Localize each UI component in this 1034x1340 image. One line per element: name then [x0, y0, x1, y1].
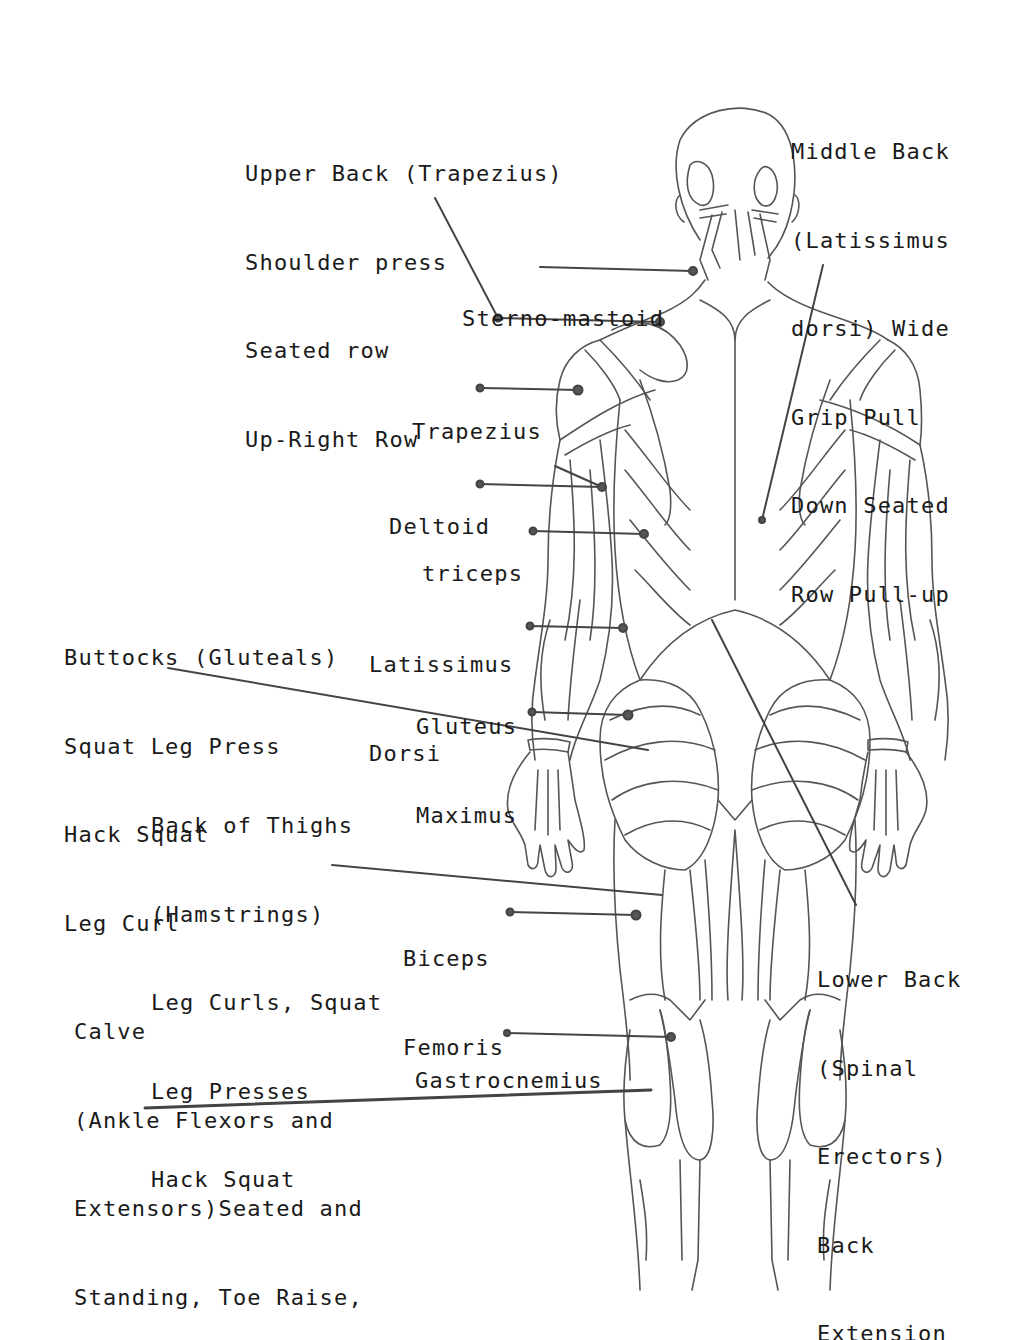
leader-lower-back	[712, 620, 856, 905]
leader-deltoid	[480, 484, 602, 487]
label-calve: Calve (Ankle Flexors and Extensors)Seate…	[74, 958, 363, 1340]
leader-biceps-femoris	[510, 912, 636, 915]
leader-triceps	[533, 531, 644, 534]
leader-gluteus	[532, 712, 628, 715]
muscle-diagram: Upper Back (Trapezius) Shoulder press Se…	[0, 0, 1034, 1340]
label-gastrocnemius: Gastrocnemius	[415, 1007, 603, 1125]
label-gluteus-maximus: Gluteus Maximus	[416, 653, 517, 860]
label-middle-back: Middle Back (Latissimus dorsi) Wide Grip…	[791, 78, 950, 639]
label-sterno-mastoid: Sterno-mastoid	[462, 245, 664, 363]
label-lower-back: Lower Back (Spinal Erectors) Back Extens…	[817, 906, 961, 1340]
